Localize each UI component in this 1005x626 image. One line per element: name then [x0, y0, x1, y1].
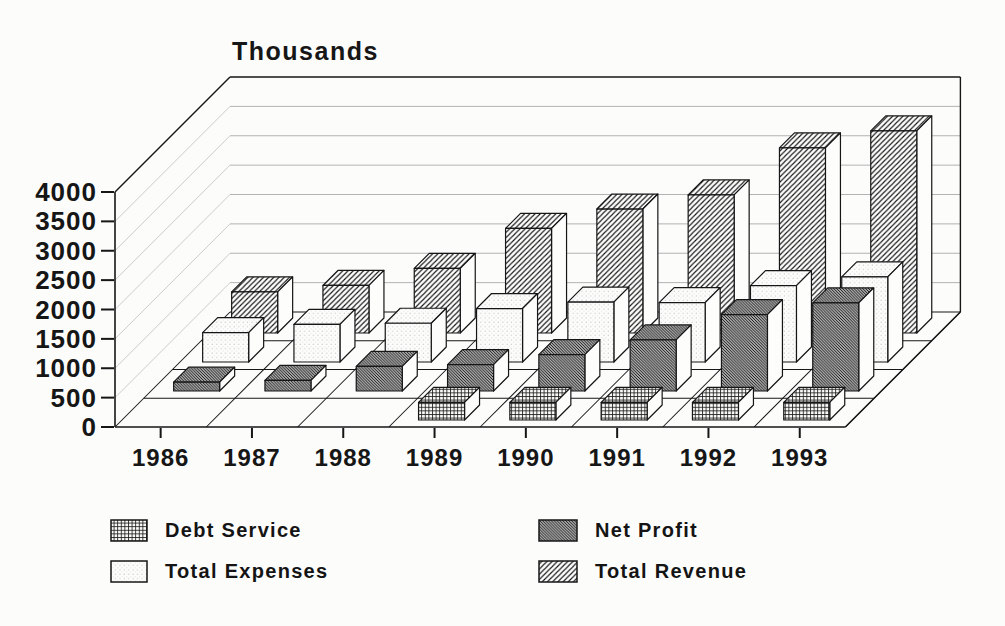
- y-axis-unit-title: Thousands: [232, 37, 379, 65]
- bar-total-expenses-1986: [203, 318, 264, 362]
- y-tick-label-500: 500: [51, 383, 97, 413]
- legend-swatch-net-profit: [538, 519, 578, 542]
- legend-item-total-revenue: Total Revenue: [538, 560, 747, 583]
- x-tick-label-1987: 1987: [223, 444, 280, 471]
- y-tick-label-4000: 4000: [35, 177, 97, 207]
- bar-net-profit-1991: [630, 325, 691, 391]
- y-tick-label-0: 0: [82, 412, 97, 442]
- bar-net-profit-1990: [539, 340, 600, 391]
- legend-label-total-revenue: Total Revenue: [595, 560, 747, 583]
- x-tick-label-1989: 1989: [406, 444, 463, 471]
- bar-net-profit-1989: [448, 350, 509, 391]
- legend-label-debt-service: Debt Service: [165, 519, 302, 542]
- x-tick-label-1986: 1986: [132, 444, 189, 471]
- y-tick-label-1000: 1000: [35, 353, 97, 383]
- x-tick-label-1992: 1992: [680, 444, 737, 471]
- bar-net-profit-1988: [356, 351, 417, 391]
- legend-swatch-total-revenue: [538, 560, 578, 583]
- x-tick-label-1990: 1990: [497, 444, 554, 471]
- legend-swatch-debt-service: [110, 519, 148, 542]
- bar-net-profit-1993: [813, 288, 874, 391]
- legend-label-total-expenses: Total Expenses: [165, 560, 328, 583]
- scanned-chart-page: 0500100015002000250030003500400019861987…: [0, 0, 1005, 626]
- legend-swatch-total-expenses: [110, 560, 148, 583]
- legend-item-debt-service: Debt Service: [110, 519, 302, 542]
- y-tick-label-2000: 2000: [35, 295, 97, 325]
- x-tick-label-1988: 1988: [315, 444, 372, 471]
- y-tick-label-1500: 1500: [35, 324, 97, 354]
- legend-label-net-profit: Net Profit: [595, 519, 698, 542]
- y-tick-label-3000: 3000: [35, 236, 97, 266]
- x-tick-label-1991: 1991: [588, 444, 645, 471]
- y-tick-label-2500: 2500: [35, 265, 97, 295]
- bar-net-profit-1992: [721, 300, 782, 391]
- x-tick-label-1993: 1993: [771, 444, 828, 471]
- bar-total-expenses-1987: [294, 309, 355, 362]
- y-tick-label-3500: 3500: [35, 206, 97, 236]
- legend-item-net-profit: Net Profit: [538, 519, 698, 542]
- legend-item-total-expenses: Total Expenses: [110, 560, 328, 583]
